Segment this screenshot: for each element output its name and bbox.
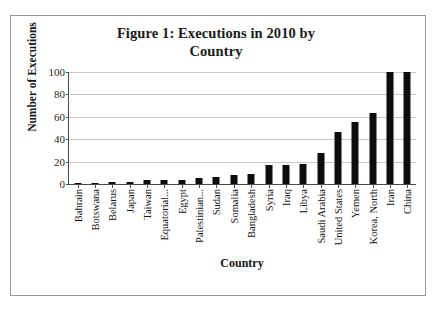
y-tick-label: 60 xyxy=(54,111,65,123)
y-tick-label: 100 xyxy=(49,66,66,78)
bar xyxy=(300,164,307,184)
bar-group: Belarus xyxy=(104,72,121,184)
x-tick-mark xyxy=(216,184,217,188)
bar-group: Egypt xyxy=(173,72,190,184)
x-tick-label: United States xyxy=(332,189,343,245)
bar xyxy=(282,165,289,184)
x-tick-label: Iraq xyxy=(280,189,291,206)
bar-group: Bangladesh xyxy=(243,72,260,184)
plot-area: 020406080100 BahrainBotswanaBelarusJapan… xyxy=(68,72,416,185)
bar-group: Libya xyxy=(295,72,312,184)
x-tick-label: Yemen xyxy=(350,189,361,218)
x-tick-mark xyxy=(95,184,96,188)
bar xyxy=(265,165,272,184)
x-tick-label: Botswana xyxy=(90,189,101,230)
x-tick-label: Korea, North xyxy=(367,189,378,244)
x-tick-mark xyxy=(269,184,270,188)
bar xyxy=(386,72,393,184)
x-tick-mark xyxy=(182,184,183,188)
x-tick-label: Belarus xyxy=(107,189,118,221)
x-tick-mark xyxy=(390,184,391,188)
x-tick-label: Japan xyxy=(124,189,135,213)
x-tick-mark xyxy=(164,184,165,188)
x-tick-mark xyxy=(78,184,79,188)
x-tick-mark xyxy=(321,184,322,188)
bar-group: Bahrain xyxy=(69,72,86,184)
bar-group: Iran xyxy=(381,72,398,184)
bar-group: China xyxy=(399,72,416,184)
y-tick-label: 80 xyxy=(54,88,65,100)
x-tick-mark xyxy=(355,184,356,188)
y-tick-label: 0 xyxy=(60,178,66,190)
x-tick-mark xyxy=(286,184,287,188)
bar-series: BahrainBotswanaBelarusJapanTaiwanEquator… xyxy=(69,72,416,184)
bar xyxy=(213,177,220,184)
x-tick-mark xyxy=(373,184,374,188)
figure-border: Figure 1: Executions in 2010 by Country … xyxy=(10,15,426,296)
bar-group: Saudi Arabia xyxy=(312,72,329,184)
x-tick-label: Syria xyxy=(263,189,274,211)
bar-group: Sudan xyxy=(208,72,225,184)
x-tick-mark xyxy=(303,184,304,188)
x-tick-label: China xyxy=(402,189,413,214)
bar xyxy=(317,153,324,184)
bar-group: Korea, North xyxy=(364,72,381,184)
bar-group: United States xyxy=(329,72,346,184)
x-tick-label: Libya xyxy=(298,189,309,214)
x-tick-label: Iran xyxy=(384,189,395,206)
bar xyxy=(404,72,411,184)
bar xyxy=(248,174,255,184)
x-tick-mark xyxy=(407,184,408,188)
bar-group: Palestinian... xyxy=(190,72,207,184)
x-tick-mark xyxy=(147,184,148,188)
bar-group: Botswana xyxy=(86,72,103,184)
y-axis-title: Number of Executions xyxy=(26,17,40,137)
x-tick-label: Equatorial... xyxy=(159,189,170,241)
bar-group: Equatorial... xyxy=(156,72,173,184)
bar-group: Yemen xyxy=(347,72,364,184)
x-tick-mark xyxy=(251,184,252,188)
bar-group: Japan xyxy=(121,72,138,184)
bar xyxy=(230,175,237,184)
bar xyxy=(334,132,341,184)
bar-group: Iraq xyxy=(277,72,294,184)
x-tick-label: Taiwan xyxy=(142,189,153,220)
bar-group: Syria xyxy=(260,72,277,184)
bar xyxy=(369,113,376,184)
bar xyxy=(352,122,359,184)
x-tick-label: Somalia xyxy=(228,189,239,223)
x-tick-mark xyxy=(338,184,339,188)
y-tick-label: 40 xyxy=(54,133,65,145)
x-axis-title: Country xyxy=(68,256,416,271)
x-tick-label: Egypt xyxy=(176,189,187,214)
x-tick-label: Sudan xyxy=(211,189,222,215)
plot-wrapper: Number of Executions 020406080100 Bahrai… xyxy=(11,16,427,297)
x-tick-label: Saudi Arabia xyxy=(315,189,326,244)
x-tick-label: Bangladesh xyxy=(246,189,257,238)
bar-group: Taiwan xyxy=(138,72,155,184)
x-tick-mark xyxy=(234,184,235,188)
bar-group: Somalia xyxy=(225,72,242,184)
x-tick-mark xyxy=(130,184,131,188)
x-tick-label: Bahrain xyxy=(72,189,83,222)
x-tick-mark xyxy=(199,184,200,188)
x-tick-mark xyxy=(112,184,113,188)
x-tick-label: Palestinian... xyxy=(194,189,205,243)
y-tick-mark xyxy=(66,184,70,185)
y-tick-label: 20 xyxy=(54,156,65,168)
